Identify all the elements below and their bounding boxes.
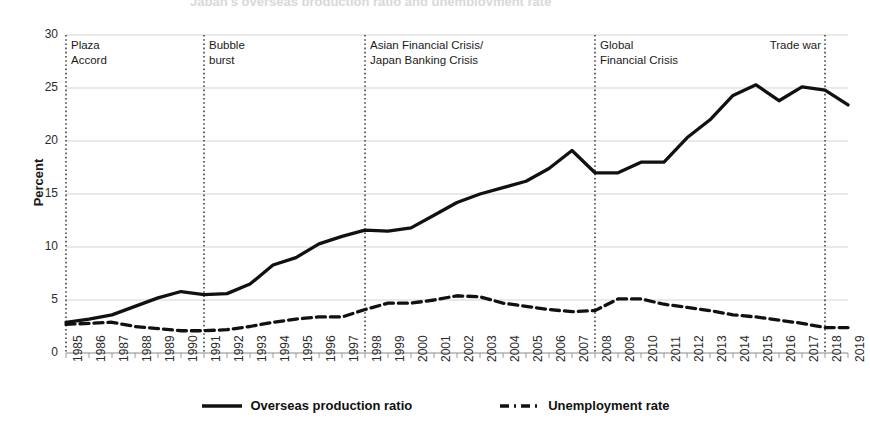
x-tick-label-1993: 1993 (255, 335, 269, 362)
annotation-plaza-accord-line-2: Accord (71, 53, 107, 68)
annotation-bubble-burst-line-2: burst (209, 53, 245, 68)
x-tick-label-2009: 2009 (623, 335, 637, 362)
x-tick-label-2011: 2011 (669, 336, 683, 362)
legend-label-overseas-production-ratio: Overseas production ratio (250, 398, 412, 413)
x-tick-label-1998: 1998 (370, 335, 384, 362)
x-tick-marks (66, 353, 848, 358)
x-tick-label-1994: 1994 (278, 335, 292, 362)
annotation-global-crisis-line-2: Financial Crisis (600, 53, 678, 68)
x-tick-label-2005: 2005 (531, 335, 545, 362)
annotation-plaza-accord-line-1: Plaza (71, 38, 107, 53)
y-tick-label-5: 5 (32, 292, 58, 306)
x-tick-label-2002: 2002 (462, 335, 476, 362)
x-tick-label-2019: 2019 (853, 335, 867, 362)
x-tick-label-2017: 2017 (807, 335, 821, 362)
x-tick-label-1992: 1992 (232, 335, 246, 362)
x-tick-label-1986: 1986 (94, 335, 108, 362)
annotation-asian-crisis: Asian Financial Crisis/Japan Banking Cri… (370, 38, 483, 68)
y-tick-label-15: 15 (32, 186, 58, 200)
y-tick-label-20: 20 (32, 133, 58, 147)
chart-figure: Japan's overseas production ratio and un… (0, 0, 870, 425)
x-tick-label-2000: 2000 (416, 335, 430, 362)
annotation-asian-crisis-line-1: Asian Financial Crisis/ (370, 38, 483, 53)
x-tick-label-1997: 1997 (347, 335, 361, 362)
x-tick-label-2013: 2013 (715, 335, 729, 362)
x-tick-label-1985: 1985 (71, 335, 85, 362)
x-tick-label-2001: 2001 (439, 335, 453, 362)
legend-key-dashed-line (498, 400, 542, 412)
x-tick-label-2008: 2008 (600, 335, 614, 362)
x-tick-label-2010: 2010 (646, 335, 660, 362)
y-tick-label-10: 10 (32, 239, 58, 253)
x-tick-label-1995: 1995 (301, 335, 315, 362)
y-tick-label-25: 25 (32, 80, 58, 94)
x-tick-label-1990: 1990 (186, 335, 200, 362)
legend-key-solid-line (200, 400, 244, 412)
legend-entry-unemployment-rate: Unemployment rate (498, 398, 669, 413)
annotation-trade-war: Trade war (625, 38, 821, 53)
annotation-bubble-burst: Bubbleburst (209, 38, 245, 68)
annotation-trade-war-line-1: Trade war (625, 38, 821, 53)
x-tick-label-1988: 1988 (140, 335, 154, 362)
x-tick-label-2012: 2012 (692, 335, 706, 362)
series-lines (66, 85, 848, 331)
x-tick-label-2014: 2014 (738, 335, 752, 362)
x-tick-label-2003: 2003 (485, 335, 499, 362)
x-tick-label-2004: 2004 (508, 335, 522, 362)
y-tick-label-0: 0 (32, 345, 58, 359)
x-tick-label-1989: 1989 (163, 335, 177, 362)
annotation-asian-crisis-line-2: Japan Banking Crisis (370, 53, 483, 68)
legend-label-unemployment-rate: Unemployment rate (548, 398, 669, 413)
x-tick-label-1999: 1999 (393, 335, 407, 362)
x-tick-label-1991: 1991 (209, 335, 223, 362)
x-tick-label-1987: 1987 (117, 335, 131, 362)
x-tick-label-2015: 2015 (761, 335, 775, 362)
chart-legend: Overseas production ratio Unemployment r… (0, 398, 870, 413)
gridlines (66, 35, 848, 300)
x-tick-label-1996: 1996 (324, 335, 338, 362)
x-tick-label-2007: 2007 (577, 335, 591, 362)
x-tick-label-2006: 2006 (554, 335, 568, 362)
y-tick-label-30: 30 (32, 27, 58, 41)
x-tick-label-2016: 2016 (784, 335, 798, 362)
annotation-plaza-accord: PlazaAccord (71, 38, 107, 68)
annotation-bubble-burst-line-1: Bubble (209, 38, 245, 53)
x-tick-label-2018: 2018 (830, 335, 844, 362)
legend-entry-overseas-production-ratio: Overseas production ratio (200, 398, 412, 413)
